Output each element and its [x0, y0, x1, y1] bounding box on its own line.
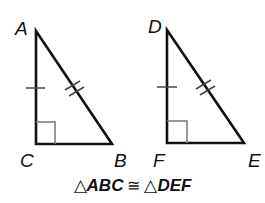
vertex-label-f: F [153, 150, 166, 171]
double-tick-ab-1 [65, 81, 80, 90]
double-tick-ab-2 [69, 87, 84, 96]
triangle-abc-outline [36, 31, 112, 144]
congruence-statement: △ABC≅△DEF [0, 175, 265, 196]
vertex-label-e: E [248, 150, 261, 171]
right-angle-marker-f [167, 121, 187, 143]
right-angle-marker-c [36, 122, 55, 144]
vertex-label-a: A [14, 18, 28, 39]
diagram-canvas: A C B D F E [0, 0, 265, 203]
vertex-label-b: B [114, 150, 127, 171]
triangle-def-outline [167, 30, 244, 143]
triangle-symbol-1: △ [74, 176, 87, 195]
vertex-label-d: D [148, 16, 162, 37]
triangle-symbol-2: △ [144, 176, 157, 195]
congruent-symbol: ≅ [127, 177, 140, 194]
vertex-label-c: C [20, 150, 34, 171]
triangle-name-def: DEF [157, 176, 191, 195]
triangle-abc: A C B [14, 18, 127, 171]
triangle-def: D F E [148, 16, 261, 171]
triangle-name-abc: ABC [87, 176, 124, 195]
